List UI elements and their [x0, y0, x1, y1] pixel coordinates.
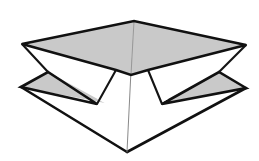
- polyhedron-drawing: [0, 0, 259, 161]
- figure-canvas: [0, 0, 259, 161]
